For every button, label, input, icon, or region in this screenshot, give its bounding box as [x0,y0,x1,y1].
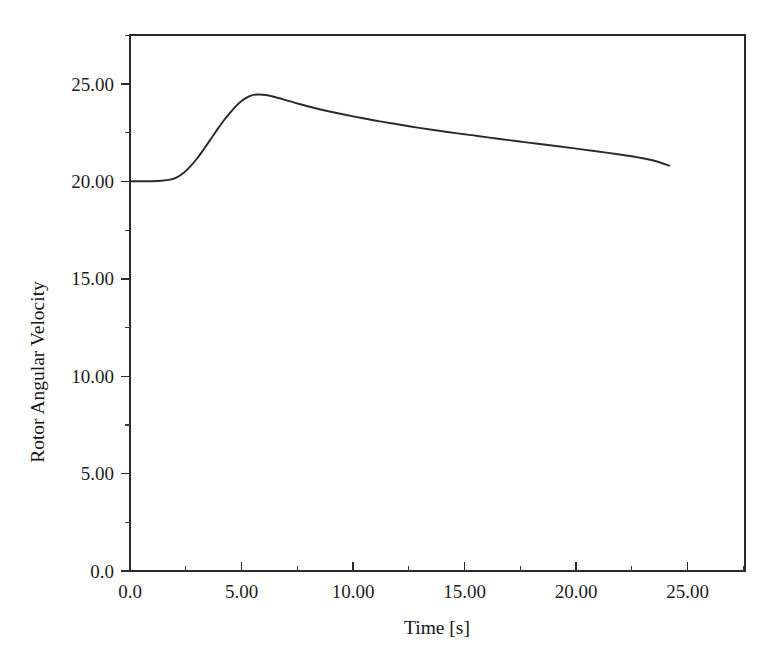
y-tick-label-20: 20.00 [71,171,114,192]
rotor-angular-velocity-line-chart: 0.0 5.00 10.00 15.00 20.00 25.00 0.0 5.0… [0,0,782,661]
y-tick-label-5: 5.00 [81,463,114,484]
x-axis-tick-labels: 0.0 5.00 10.00 15.00 20.00 25.00 [118,581,709,602]
x-tick-label-5: 5.00 [225,581,258,602]
chart-figure: 0.0 5.00 10.00 15.00 20.00 25.00 0.0 5.0… [0,0,782,661]
y-tick-label-15: 15.00 [71,268,114,289]
x-tick-label-20: 20.00 [555,581,598,602]
x-tick-label-25: 25.00 [666,581,709,602]
y-tick-label-0: 0.0 [90,561,114,582]
plot-frame [130,35,745,571]
y-axis-tick-labels: 0.0 5.00 10.00 15.00 20.00 25.00 [71,74,114,582]
x-axis-title: Time [s] [404,617,470,638]
x-tick-label-10: 10.00 [332,581,375,602]
x-tick-label-0: 0.0 [118,581,142,602]
y-axis-title: Rotor Angular Velocity [27,281,48,463]
x-tick-label-15: 15.00 [443,581,486,602]
series-line-rotor-angular-velocity [130,94,669,181]
y-tick-label-10: 10.00 [71,366,114,387]
y-tick-label-25: 25.00 [71,74,114,95]
